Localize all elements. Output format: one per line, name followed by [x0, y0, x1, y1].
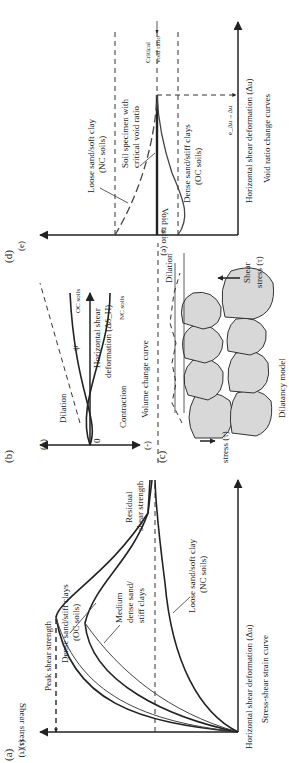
contraction-label: Contraction	[118, 385, 128, 428]
dilated-outline	[170, 273, 182, 423]
panel-c-caption: Dilatancy model	[277, 358, 287, 418]
panel-b-x-label-1: Horizontal shear	[92, 308, 102, 368]
panel-a-y-label: Shear stress (τ)	[18, 703, 28, 758]
oc-label: OC soils	[74, 288, 82, 313]
medium-label-3: stiff clays	[136, 587, 146, 623]
residual-label-1: Residual	[124, 491, 134, 523]
dilation-label: Dilation	[58, 393, 68, 423]
panel-b-caption: Volume change curve	[140, 340, 150, 418]
panel-a-stress-strain: (a) (τ) Shear stress (τ) Horizontal shea…	[2, 480, 270, 761]
geotechnical-figure: (a) (τ) Shear stress (τ) Horizontal shea…	[0, 0, 289, 763]
loose-d-label-2: (NC soils)	[97, 136, 107, 173]
loose-label-2: (NC soils)	[198, 556, 208, 593]
shear-stress-top-2: stress (τ)	[254, 256, 264, 288]
panel-b-x-label-2: deformation (Δδ_H)	[103, 305, 113, 378]
panel-d-y-symbol: (e)	[16, 241, 26, 251]
panel-c-dilation-label: Dilation	[164, 253, 174, 283]
panel-a-tag: (a)	[2, 748, 15, 761]
critical-void-label-2: void ratio	[154, 35, 162, 63]
oc-soils-curve	[70, 293, 92, 445]
soil-grains	[181, 268, 273, 438]
nc-label: NC soils	[118, 295, 126, 320]
critical-specimen-label-1: Soil specimen with	[120, 99, 130, 168]
panel-b-tag: (b)	[2, 450, 15, 463]
critical-specimen-label-2: critical void ratio	[131, 106, 141, 168]
loose-d-label-1: Loose sand/soft clay	[86, 119, 96, 193]
panel-b-volume-change: (b) (+) (-) 0 Dilation Contraction ψ OC …	[2, 283, 152, 463]
panel-c-dilatancy-model: (c) Dilation Shear stress (τ) stress (τ)…	[155, 243, 287, 463]
medium-curve	[85, 480, 238, 732]
panel-d-tag: (d)	[2, 250, 15, 263]
dense-label-1: Dense sand/stiff clays	[60, 584, 70, 663]
panel-b-minus: (-)	[142, 441, 152, 450]
medium-label-1: Medium	[114, 593, 124, 624]
medium-label-2: dense sand/	[125, 581, 135, 623]
shear-stress-top-1: Shear	[242, 263, 252, 284]
residual-label-2: shear strength	[135, 480, 145, 531]
ecrit-label: e_Δu→Δu	[226, 105, 234, 135]
panel-d-e0: e	[157, 229, 167, 233]
dense-label-2: (OC soils)	[71, 604, 81, 641]
panel-b-zero: 0	[92, 438, 102, 443]
panel-a-x-label: Horizontal shear deformation (Δu)	[244, 625, 254, 750]
shear-stress-bottom: stress (τ)	[220, 431, 230, 463]
psi-label: ψ	[70, 345, 80, 351]
panel-d-void-ratio: (d) (e) Void ratio (e) e Horizontal shea…	[2, 21, 272, 263]
dense-d-label-1: Dense sand/stiff clays	[182, 124, 192, 203]
loose-label-1: Loose sand/soft clay	[187, 539, 197, 613]
panel-c-tag: (c)	[155, 450, 168, 463]
panel-d-caption: Void ratio change curves	[262, 93, 272, 183]
panel-a-caption: Stress-shear strain curve	[260, 635, 270, 723]
critical-void-label-1: Critical	[144, 42, 152, 63]
peak-label: Peak shear strength	[43, 621, 53, 691]
panel-d-x-label: Horizontal shear deformation (Δu)	[244, 79, 254, 204]
dense-d-label-2: (OC soils)	[193, 148, 203, 185]
